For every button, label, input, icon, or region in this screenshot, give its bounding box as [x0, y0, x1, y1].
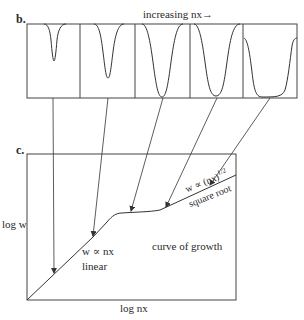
linear-label: linear [82, 260, 107, 272]
profile-2 [94, 24, 124, 78]
panel-b-label: b. [16, 12, 26, 27]
arrow-2 [93, 98, 108, 236]
curve-of-growth-diagram [0, 0, 304, 320]
panel-c-label: c. [16, 143, 24, 158]
profile-5 [244, 38, 297, 97]
profile-4 [194, 24, 240, 96]
x-axis-label: log nx [120, 302, 148, 314]
increasing-nx-title: increasing nx→ [143, 8, 213, 20]
linear-relation: w ∝ nx [82, 245, 114, 258]
y-axis-label: log w [2, 218, 27, 230]
profile-3 [142, 24, 183, 97]
arrow-1 [53, 98, 54, 273]
line-profiles-panel [27, 24, 297, 98]
profile-1 [44, 24, 66, 61]
curve-label: curve of growth [152, 240, 222, 252]
